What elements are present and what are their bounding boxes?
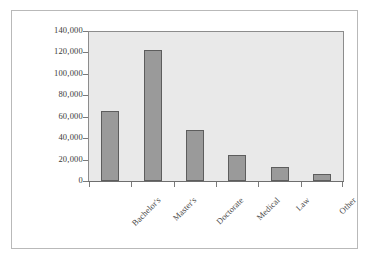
y-tick-mark: [83, 160, 88, 161]
y-tick-label: 80,000: [58, 90, 83, 99]
bar: [186, 130, 204, 181]
y-tick-label: 20,000: [58, 155, 83, 164]
y-tick-mark: [83, 138, 88, 139]
bar: [144, 50, 162, 181]
chart-figure: 020,00040,00060,00080,000100,000120,0001…: [11, 10, 358, 249]
x-axis: Bachelor'sMaster'sDoctorateMedicalLawOth…: [89, 187, 343, 247]
bar: [101, 111, 119, 181]
bar: [271, 167, 289, 181]
x-tick-label: Medical: [255, 195, 282, 222]
x-tick-label: Master's: [170, 195, 198, 223]
y-tick-label: 120,000: [54, 47, 83, 56]
y-tick-mark: [83, 52, 88, 53]
y-tick-label: 40,000: [58, 133, 83, 142]
bar: [313, 174, 331, 182]
bar-series: [89, 31, 343, 181]
y-tick-label: 60,000: [58, 112, 83, 121]
bar: [228, 155, 246, 181]
y-tick-label: 140,000: [54, 26, 83, 35]
y-tick-mark: [83, 181, 88, 182]
y-tick-mark: [83, 95, 88, 96]
x-tick-label: Law: [293, 195, 311, 213]
y-tick-mark: [83, 117, 88, 118]
x-tick-label: Doctorate: [214, 195, 245, 226]
y-axis: 020,00040,00060,00080,000100,000120,0001…: [12, 11, 83, 191]
x-tick-label: Bachelor's: [130, 195, 163, 228]
y-tick-label: 100,000: [54, 69, 83, 78]
x-tick-label: Other: [337, 195, 358, 216]
y-tick-mark: [83, 74, 88, 75]
y-tick-mark: [83, 31, 88, 32]
